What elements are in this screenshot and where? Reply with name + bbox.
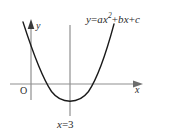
origin-label: O xyxy=(20,86,27,96)
math-figure-parabola: y=ax2+bx+c y x O x=3 xyxy=(0,0,180,139)
y-axis-label: y xyxy=(36,21,40,31)
x-axis-label: x xyxy=(135,85,139,95)
axis-of-symmetry-label: x=3 xyxy=(57,119,74,130)
y-axis-arrowhead xyxy=(28,19,35,29)
vertex-value: 3 xyxy=(68,118,74,130)
equation-c: c xyxy=(135,13,140,25)
equation-label: y=ax2+bx+c xyxy=(86,12,140,25)
parabola-curve xyxy=(23,22,114,101)
